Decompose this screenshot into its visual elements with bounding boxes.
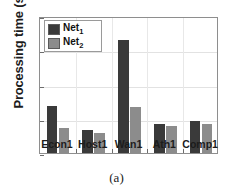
legend-label-net1: Net1 bbox=[63, 23, 83, 36]
figure-caption: (a) bbox=[0, 170, 233, 186]
figure-panel: Processing time (s) 00.511.52 Net1 Net2 … bbox=[0, 0, 233, 195]
y-tickmark bbox=[40, 155, 44, 156]
bar-net1-wan1 bbox=[118, 40, 129, 153]
y-tickmark bbox=[40, 18, 44, 19]
x-tickmark bbox=[147, 149, 148, 153]
y-tickmark bbox=[40, 121, 44, 122]
legend-swatch-net2 bbox=[48, 38, 60, 49]
y-axis-label: Processing time (s) bbox=[11, 0, 26, 121]
plot-area: Net1 Net2 bbox=[39, 17, 218, 154]
x-tick-label-comp1: Comp1 bbox=[182, 138, 218, 150]
x-tick-label-econ1: Econ1 bbox=[41, 138, 73, 150]
legend-item: Net1 bbox=[48, 23, 98, 36]
legend: Net1 Net2 bbox=[44, 20, 102, 52]
y-tickmark bbox=[40, 87, 44, 88]
y-tickmark bbox=[40, 52, 44, 53]
gridline-vertical bbox=[147, 18, 148, 153]
x-tickmark bbox=[112, 149, 113, 153]
gridline-vertical bbox=[183, 18, 184, 153]
x-tick-label-host1: Host1 bbox=[78, 138, 107, 150]
gridline-vertical bbox=[112, 18, 113, 153]
x-tickmark bbox=[76, 149, 77, 153]
legend-label-net2: Net2 bbox=[63, 37, 83, 50]
legend-swatch-net1 bbox=[48, 24, 60, 35]
legend-item: Net2 bbox=[48, 37, 98, 50]
x-tick-label-wan1: Wan1 bbox=[115, 138, 143, 150]
x-tick-label-ath1: Ath1 bbox=[153, 138, 176, 150]
